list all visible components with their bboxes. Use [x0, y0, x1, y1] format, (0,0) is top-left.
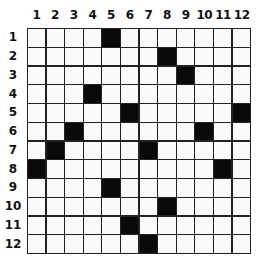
grid-cell-white[interactable]	[177, 198, 194, 216]
grid-cell-white[interactable]	[195, 142, 212, 160]
grid-cell-white[interactable]	[84, 160, 101, 178]
grid-cell-white[interactable]	[140, 217, 157, 235]
grid-cell-white[interactable]	[84, 48, 101, 66]
grid-cell-white[interactable]	[28, 142, 45, 160]
grid-cell-white[interactable]	[84, 179, 101, 197]
grid-cell-white[interactable]	[102, 104, 119, 122]
grid-cell-white[interactable]	[121, 29, 138, 47]
grid-cell-white[interactable]	[233, 217, 250, 235]
grid-cell-white[interactable]	[102, 160, 119, 178]
grid-cell-black[interactable]	[65, 123, 82, 141]
grid-cell-white[interactable]	[65, 67, 82, 85]
grid-cell-white[interactable]	[158, 179, 175, 197]
grid-cell-white[interactable]	[177, 160, 194, 178]
grid-cell-white[interactable]	[158, 29, 175, 47]
grid-cell-white[interactable]	[140, 179, 157, 197]
grid-cell-white[interactable]	[177, 142, 194, 160]
grid-cell-white[interactable]	[195, 67, 212, 85]
grid-cell-white[interactable]	[140, 123, 157, 141]
grid-cell-white[interactable]	[121, 85, 138, 103]
grid-cell-white[interactable]	[195, 85, 212, 103]
grid-cell-black[interactable]	[47, 142, 64, 160]
grid-cell-white[interactable]	[102, 85, 119, 103]
grid-cell-white[interactable]	[65, 217, 82, 235]
grid-cell-white[interactable]	[195, 235, 212, 253]
grid-cell-white[interactable]	[84, 29, 101, 47]
grid-cell-black[interactable]	[158, 198, 175, 216]
grid-cell-white[interactable]	[28, 67, 45, 85]
grid-cell-white[interactable]	[158, 217, 175, 235]
grid-cell-white[interactable]	[47, 217, 64, 235]
grid-cell-black[interactable]	[195, 123, 212, 141]
grid-cell-black[interactable]	[233, 104, 250, 122]
grid-cell-white[interactable]	[177, 123, 194, 141]
grid-cell-white[interactable]	[84, 104, 101, 122]
grid-cell-white[interactable]	[28, 104, 45, 122]
grid-cell-white[interactable]	[233, 48, 250, 66]
grid-cell-white[interactable]	[84, 142, 101, 160]
grid-cell-white[interactable]	[158, 142, 175, 160]
grid-cell-white[interactable]	[28, 48, 45, 66]
grid-cell-white[interactable]	[47, 104, 64, 122]
grid-cell-white[interactable]	[233, 142, 250, 160]
grid-cell-white[interactable]	[121, 198, 138, 216]
grid-cell-white[interactable]	[233, 160, 250, 178]
grid-cell-white[interactable]	[214, 235, 231, 253]
grid-cell-white[interactable]	[47, 29, 64, 47]
grid-cell-white[interactable]	[84, 67, 101, 85]
grid-cell-white[interactable]	[140, 104, 157, 122]
grid-cell-white[interactable]	[158, 67, 175, 85]
grid-cell-white[interactable]	[65, 198, 82, 216]
grid-cell-white[interactable]	[177, 179, 194, 197]
grid-cell-white[interactable]	[195, 179, 212, 197]
grid-cell-white[interactable]	[140, 160, 157, 178]
grid-cell-white[interactable]	[233, 235, 250, 253]
grid-cell-white[interactable]	[214, 85, 231, 103]
grid-cell-white[interactable]	[84, 198, 101, 216]
grid-cell-white[interactable]	[65, 29, 82, 47]
grid-cell-black[interactable]	[177, 67, 194, 85]
grid-cell-white[interactable]	[47, 67, 64, 85]
grid-cell-white[interactable]	[158, 160, 175, 178]
grid-cell-white[interactable]	[102, 235, 119, 253]
grid-cell-black[interactable]	[140, 235, 157, 253]
grid-cell-white[interactable]	[121, 123, 138, 141]
grid-cell-white[interactable]	[121, 235, 138, 253]
grid-cell-black[interactable]	[102, 29, 119, 47]
grid-cell-white[interactable]	[140, 48, 157, 66]
grid-cell-white[interactable]	[65, 48, 82, 66]
grid-cell-white[interactable]	[233, 85, 250, 103]
grid-cell-white[interactable]	[233, 179, 250, 197]
grid-cell-white[interactable]	[28, 235, 45, 253]
grid-cell-white[interactable]	[233, 67, 250, 85]
grid-cell-white[interactable]	[214, 123, 231, 141]
grid-cell-white[interactable]	[28, 123, 45, 141]
grid-cell-white[interactable]	[214, 179, 231, 197]
grid-cell-white[interactable]	[195, 160, 212, 178]
grid-cell-white[interactable]	[121, 160, 138, 178]
grid-cell-white[interactable]	[121, 142, 138, 160]
grid-cell-black[interactable]	[140, 142, 157, 160]
grid-cell-white[interactable]	[102, 67, 119, 85]
grid-cell-white[interactable]	[28, 179, 45, 197]
grid-cell-black[interactable]	[214, 160, 231, 178]
grid-cell-white[interactable]	[195, 198, 212, 216]
grid-cell-black[interactable]	[158, 48, 175, 66]
grid-cell-white[interactable]	[214, 142, 231, 160]
grid-cell-white[interactable]	[177, 29, 194, 47]
grid-cell-white[interactable]	[140, 29, 157, 47]
grid-cell-white[interactable]	[65, 179, 82, 197]
grid-cell-white[interactable]	[214, 29, 231, 47]
grid-cell-white[interactable]	[121, 48, 138, 66]
grid-cell-white[interactable]	[214, 198, 231, 216]
grid-cell-black[interactable]	[121, 217, 138, 235]
grid-cell-white[interactable]	[102, 123, 119, 141]
grid-cell-white[interactable]	[65, 85, 82, 103]
grid-cell-black[interactable]	[84, 85, 101, 103]
grid-cell-white[interactable]	[121, 67, 138, 85]
grid-cell-white[interactable]	[195, 217, 212, 235]
grid-cell-white[interactable]	[140, 67, 157, 85]
grid-cell-white[interactable]	[195, 104, 212, 122]
grid-cell-white[interactable]	[121, 179, 138, 197]
grid-cell-black[interactable]	[102, 179, 119, 197]
